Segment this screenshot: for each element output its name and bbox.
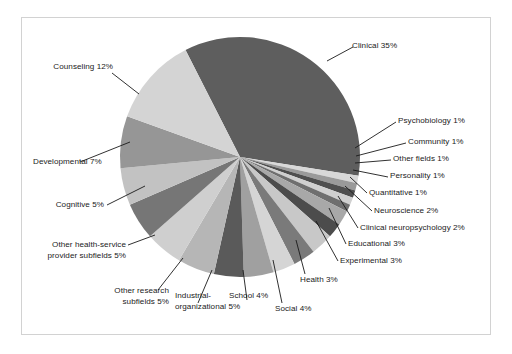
slice-label-industrial-organizational-line2: organizational 5%	[175, 302, 240, 311]
leader-line-other-fields	[355, 160, 391, 163]
slice-label-other-health-service-provider-subfields: Other health-service provider subfields …	[40, 240, 126, 261]
slice-label-other-research-subfields-line1: Other research	[114, 286, 169, 295]
slice-label-quantitative: Quantitative 1%	[369, 188, 427, 199]
slice-label-neuroscience: Neuroscience 2%	[374, 206, 438, 217]
pie-chart-figure: Clinical 35% Psychobiology 1% Community …	[0, 0, 512, 354]
slice-label-counseling: Counseling 12%	[40, 62, 113, 73]
slice-label-other-research-subfields-line2: subfields 5%	[123, 297, 170, 306]
slice-label-other-fields: Other fields 1%	[393, 154, 449, 165]
leader-line-other-hsp	[128, 235, 155, 245]
slice-label-industrial-organizational: Industrial- organizational 5%	[175, 291, 245, 312]
slice-label-personality: Personality 1%	[390, 171, 445, 182]
leader-line-clinical	[327, 47, 353, 61]
slice-label-health: Health 3%	[300, 275, 338, 286]
pie-slices-group	[120, 37, 360, 277]
slice-label-clinical: Clinical 35%	[352, 41, 397, 52]
slice-label-clinical-neuropsychology: Clinical neuropsychology 2%	[360, 223, 465, 234]
slice-label-cognitive: Cognitive 5%	[38, 200, 104, 211]
slice-label-experimental: Experimental 3%	[340, 256, 402, 267]
leader-line-counseling	[112, 73, 139, 94]
slice-label-social: Social 4%	[275, 304, 311, 315]
slice-label-other-research-subfields: Other research subfields 5%	[106, 286, 169, 307]
slice-label-psychobiology: Psychobiology 1%	[398, 116, 465, 127]
slice-label-industrial-organizational-line1: Industrial-	[175, 291, 211, 300]
slice-label-educational: Educational 3%	[348, 239, 405, 250]
slice-label-community: Community 1%	[408, 137, 463, 148]
slice-label-other-hsp-line1: Other health-service	[52, 240, 126, 249]
slice-label-other-hsp-line2: provider subfields 5%	[48, 251, 126, 260]
leader-line-psychobiology	[355, 122, 396, 148]
slice-label-developmental: Developmental 7%	[33, 157, 77, 168]
